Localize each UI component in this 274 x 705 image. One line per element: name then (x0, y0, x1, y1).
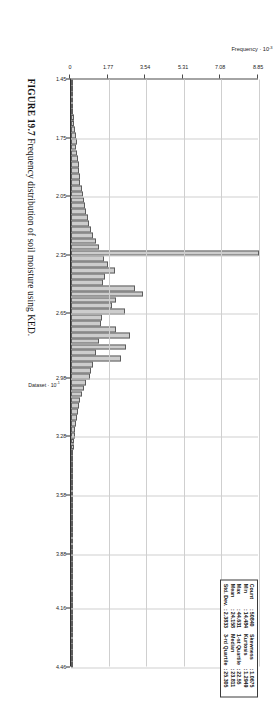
statistic-value-2: 25.305 (223, 671, 229, 693)
statistic-label-2: 3-rd Quartile (223, 634, 229, 668)
statistic-separator: : (249, 608, 255, 612)
x-axis-tick (66, 195, 70, 196)
histogram-bar (71, 502, 73, 508)
histogram-bar (71, 444, 74, 450)
histogram-bar (71, 261, 108, 267)
histogram-bar (71, 496, 73, 502)
histogram-bar (71, 220, 89, 226)
x-axis-tick-label: 4.46 (56, 663, 66, 669)
histogram-bar (71, 467, 73, 473)
histogram-bar (71, 79, 73, 85)
histogram-bar (71, 555, 73, 561)
histogram-bar (71, 626, 73, 632)
histogram-bar (71, 602, 73, 608)
histogram-bar (71, 144, 76, 150)
statistic-value-2: 23.811 (229, 671, 235, 693)
histogram-bar (71, 126, 75, 132)
statistic-label-2: Median (229, 634, 235, 668)
histogram-bar (71, 338, 99, 344)
caption-text: Frequency distribution of soil moisture … (26, 138, 36, 336)
x-axis-tick-label: 4.16 (56, 604, 66, 610)
statistics-row: Max:44.6311-st Quartile:22.55 (236, 583, 242, 693)
x-gridline (71, 554, 258, 555)
x-axis-tick-label: 3.88 (56, 550, 66, 556)
statistic-value: 24.158 (229, 611, 235, 633)
y-axis-label-exponent: -3 (269, 44, 273, 49)
histogram-bar (71, 344, 126, 350)
histogram-bar (71, 155, 78, 161)
histogram-bar (71, 85, 73, 91)
histogram-bar (71, 591, 73, 597)
histogram-bar (71, 185, 82, 191)
statistic-value: 50840 (249, 611, 255, 633)
histogram-bar (71, 355, 121, 361)
y-axis-tick-label: 5.31 (178, 63, 188, 69)
histogram-bar (71, 638, 73, 644)
x-axis-tick (66, 607, 70, 608)
histogram-bar (71, 314, 102, 320)
statistic-separator-2: : (229, 667, 235, 671)
histogram-bar (71, 114, 74, 120)
histogram-bar (71, 132, 76, 138)
x-axis-tick-label: 1.45 (56, 75, 66, 81)
histogram-bar (71, 526, 73, 532)
histogram-bars (71, 79, 258, 666)
y-gridline (184, 79, 185, 666)
y-axis-tick-label: 8.85 (253, 63, 263, 69)
histogram-bar (71, 238, 96, 244)
histogram-bar (71, 97, 73, 103)
histogram-bar (71, 332, 130, 338)
histogram-bar (71, 397, 80, 403)
statistics-table: Count:50840Skewness:1.0675Min:14.484Kurt… (223, 583, 255, 693)
x-axis-tick-label: 2.35 (56, 251, 66, 257)
histogram-bar (71, 655, 73, 661)
histogram-bar (71, 455, 73, 461)
histogram-bar (71, 361, 93, 367)
statistic-label: Max (236, 583, 242, 607)
y-gridline (221, 79, 222, 666)
x-axis-tick (66, 435, 70, 436)
histogram-bar (71, 367, 91, 373)
statistic-separator-2: : (242, 667, 248, 671)
histogram-bar (71, 449, 73, 455)
histogram-bar (71, 426, 75, 432)
figure-caption: FIGURE 19.7 Frequency distribution of so… (26, 78, 36, 666)
histogram-bar (71, 420, 76, 426)
histogram-bar (71, 661, 73, 667)
y-axis-tick (144, 74, 145, 78)
statistics-row: Count:50840Skewness:1.0675 (249, 583, 255, 693)
x-gridline (71, 196, 258, 197)
y-axis-tick (69, 74, 70, 78)
histogram-bar (71, 614, 73, 620)
statistics-row: Min:14.484Kurtosis:1.2949 (242, 583, 248, 693)
statistic-separator: : (236, 608, 242, 612)
y-axis-label: Frequency · 10-3 (231, 44, 272, 52)
statistic-separator: : (242, 608, 248, 612)
x-axis-tick-label: 1.75 (56, 134, 66, 140)
statistic-label: Std. Dev. (223, 583, 229, 607)
histogram-bar (71, 349, 96, 355)
histogram-bar (71, 202, 85, 208)
caption-number: FIGURE 19.7 (26, 78, 36, 135)
histogram-bar (71, 91, 73, 97)
histogram-bar (71, 291, 143, 297)
y-axis-tick-label: 3.54 (140, 63, 150, 69)
histogram-bar (71, 108, 73, 114)
histogram-bar (71, 379, 86, 385)
histogram-bar (71, 473, 73, 479)
statistic-separator: : (229, 608, 235, 612)
y-axis-tick-label: 1.77 (103, 63, 113, 69)
statistic-label-2: Skewness (249, 634, 255, 668)
histogram-bar (71, 538, 73, 544)
x-axis-tick (66, 494, 70, 495)
x-axis-label-exponent: -1 (56, 380, 59, 384)
y-axis-tick (182, 74, 183, 78)
histogram-bar (71, 179, 80, 185)
histogram-bar (71, 279, 103, 285)
histogram-bar (71, 402, 79, 408)
y-axis-tick (219, 74, 220, 78)
histogram-bar (71, 150, 77, 156)
statistic-label: Min (242, 583, 248, 607)
histogram-bar (71, 414, 77, 420)
x-gridline (71, 255, 258, 256)
